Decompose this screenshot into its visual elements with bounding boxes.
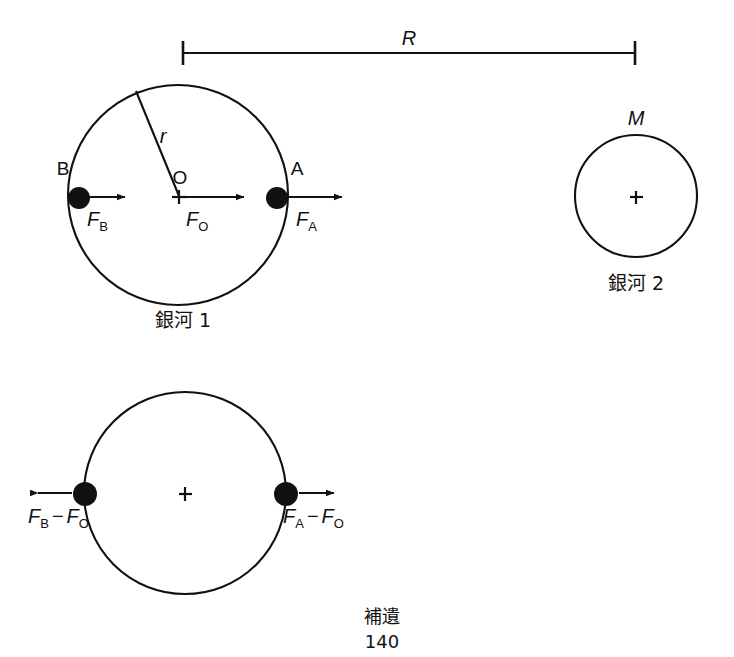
galaxy-1-relative-point-a-dot: [274, 482, 298, 506]
galaxy-tidal-force-diagram: R r O FO B FB A FA 銀河 1: [0, 0, 734, 657]
page-footer: 補遺 140: [364, 606, 400, 652]
galaxy-1-point-a-dot: [266, 187, 288, 209]
galaxy-2-group: M 銀河 2: [575, 107, 697, 294]
galaxy-1-caption: 銀河 1: [155, 309, 211, 331]
page-number: 140: [365, 631, 399, 652]
dimension-label-R: R: [402, 27, 416, 49]
galaxy-1-relative-point-b-dot: [73, 482, 97, 506]
galaxy-1-group: r O FO B FB A FA 銀河 1: [57, 85, 342, 331]
galaxy-1-relative-group: FB−FO FA−FO: [28, 392, 344, 594]
point-a-label: A: [291, 158, 304, 179]
galaxy-2-caption: 銀河 2: [608, 272, 664, 294]
figure-root: R r O FO B FB A FA 銀河 1: [0, 0, 734, 657]
force-a-relative-label: FA−FO: [283, 505, 344, 531]
separation-dimension: R: [183, 27, 635, 65]
galaxy-2-mass-label: M: [628, 107, 645, 129]
point-b-label: B: [57, 158, 70, 179]
force-a-label: FA: [296, 208, 317, 234]
center-label-O: O: [173, 167, 188, 188]
footer-label: 補遺: [364, 606, 400, 627]
force-b-relative-label: FB−FO: [28, 505, 89, 531]
galaxy-1-point-b-dot: [68, 187, 90, 209]
